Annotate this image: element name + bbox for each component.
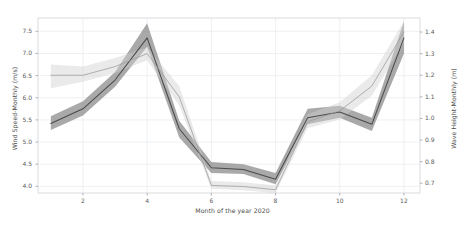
y-axis-right-title: Wave Height-Monthly (m) [450, 39, 457, 179]
y-tick-label-left: 7.5 [10, 27, 32, 34]
chart-figure: Month of the year 2020 Wind Speed-Monthl… [0, 0, 465, 225]
y-tick-label-right: 0.8 [425, 158, 447, 165]
y-tick-label-right: 1.3 [425, 50, 447, 57]
y-tick-label-right: 0.9 [425, 136, 447, 143]
y-tick-label-left: 7.0 [10, 49, 32, 56]
series-bands [51, 21, 404, 193]
y-tick-label-right: 1.1 [425, 93, 447, 100]
x-tick-label: 10 [330, 197, 350, 204]
y-tick-label-left: 5.0 [10, 138, 32, 145]
y-axis-left-title: Wind Speed-Monthly (m/s) [11, 39, 18, 179]
y-tick-label-left: 4.5 [10, 160, 32, 167]
y-tick-label-left: 6.0 [10, 94, 32, 101]
y-tick-label-right: 1.0 [425, 114, 447, 121]
y-tick-label-left: 4.0 [10, 182, 32, 189]
x-axis-title: Month of the year 2020 [0, 207, 465, 214]
y-tick-label-left: 5.5 [10, 116, 32, 123]
y-tick-label-right: 1.2 [425, 71, 447, 78]
x-tick-label: 12 [394, 197, 414, 204]
x-tick-label: 4 [137, 197, 157, 204]
chart-plot-area [0, 0, 465, 225]
x-tick-label: 2 [73, 197, 93, 204]
y-tick-label-right: 1.4 [425, 28, 447, 35]
x-tick-label: 8 [266, 197, 286, 204]
y-tick-label-left: 6.5 [10, 72, 32, 79]
y-tick-label-right: 0.7 [425, 179, 447, 186]
x-tick-label: 6 [201, 197, 221, 204]
